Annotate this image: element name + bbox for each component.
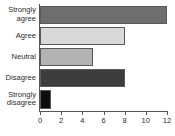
bar-neutral	[40, 48, 93, 66]
x-tick-label: 2	[54, 116, 68, 125]
x-tick-label: 12	[160, 116, 174, 125]
x-tick-label: 4	[75, 116, 89, 125]
bar-row	[40, 68, 167, 89]
likert-bar-chart: Strongly agreeAgreeNeutralDisagreeStrong…	[0, 0, 175, 136]
y-axis-label: Strongly disagree	[0, 91, 36, 108]
y-axis-label: Agree	[0, 32, 36, 41]
bar-row	[40, 46, 167, 67]
bar-row	[40, 25, 167, 46]
bar-strongly-disagree	[40, 90, 51, 108]
x-tick-mark	[104, 112, 105, 115]
x-tick-mark	[125, 112, 126, 115]
plot-area	[40, 4, 167, 110]
bar-row	[40, 4, 167, 25]
x-tick-label: 6	[97, 116, 111, 125]
x-tick-mark	[146, 112, 147, 115]
x-tick-mark	[61, 112, 62, 115]
y-axis-label: Strongly agree	[0, 6, 36, 23]
y-axis-label: Neutral	[0, 53, 36, 62]
x-tick-label: 8	[118, 116, 132, 125]
y-axis-label: Disagree	[0, 74, 36, 83]
x-tick-label: 0	[33, 116, 47, 125]
x-tick-mark	[82, 112, 83, 115]
x-tick-mark	[167, 112, 168, 115]
bar-agree	[40, 27, 125, 45]
bar-strongly-agree	[40, 6, 167, 24]
x-tick-mark	[40, 112, 41, 115]
bar-row	[40, 89, 167, 110]
x-tick-label: 10	[139, 116, 153, 125]
bar-disagree	[40, 69, 125, 87]
